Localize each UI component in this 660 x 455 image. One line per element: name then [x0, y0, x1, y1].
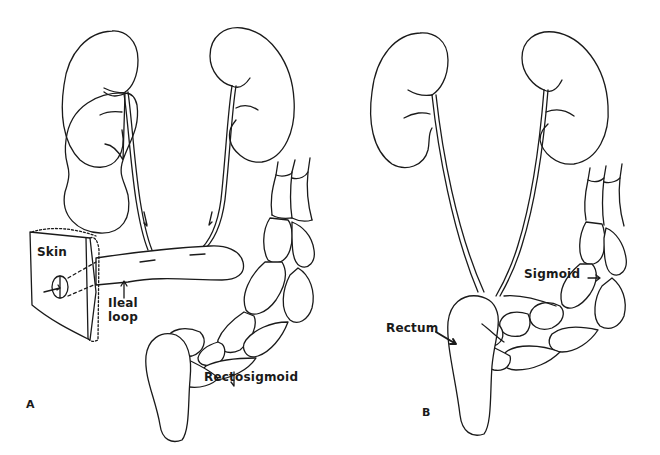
ureter-right-b [496, 90, 544, 296]
panel-letter-b: B [422, 406, 430, 419]
diagram-canvas [0, 0, 660, 455]
ureter-left-b [432, 95, 478, 292]
rectum-a [146, 334, 191, 442]
kidney-right-a-outline [210, 28, 294, 162]
rectum-b [448, 296, 499, 435]
label-loop: loop [108, 311, 138, 324]
label-ileal: Ileal [108, 297, 138, 310]
kidney-left-a-outline [62, 31, 138, 167]
ileal-loop [96, 246, 244, 285]
panel-b-drawing [371, 32, 627, 435]
label-rectum: Rectum [386, 322, 438, 335]
label-skin: Skin [37, 246, 67, 259]
kidney-right-b [522, 32, 608, 164]
panel-letter-a: A [26, 398, 35, 411]
label-sigmoid: Sigmoid [524, 268, 580, 281]
label-rectosigmoid: Rectosigmoid [204, 371, 298, 384]
